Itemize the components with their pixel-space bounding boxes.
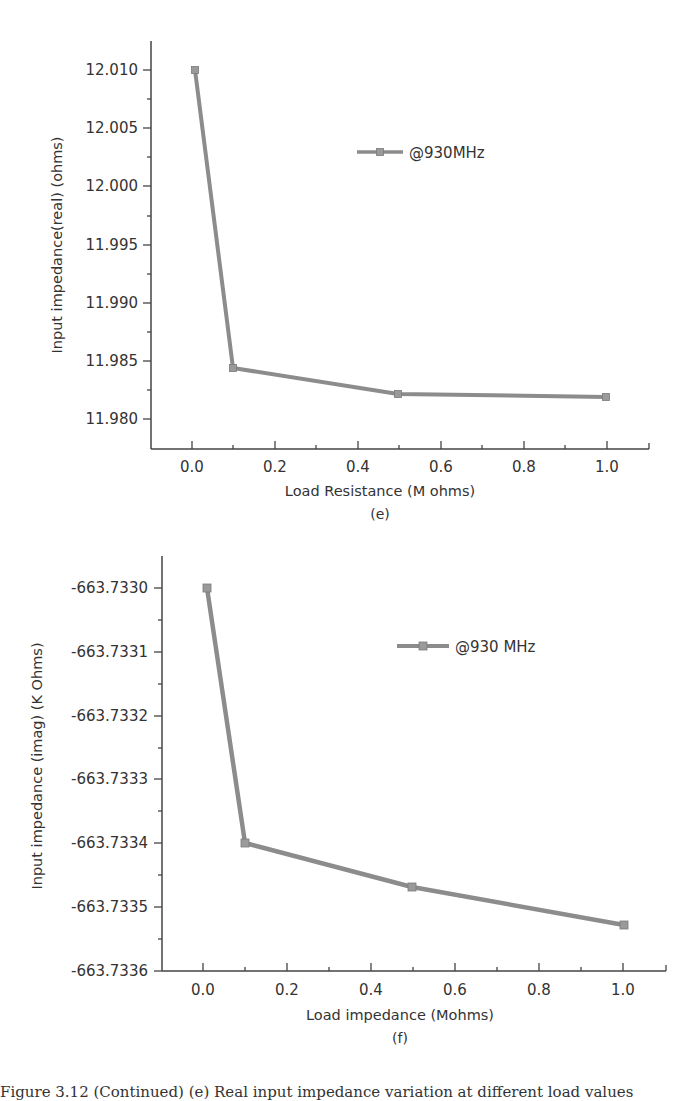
- y-tick-label: -663.7333: [71, 770, 148, 788]
- x-tick-label: 0.6: [443, 981, 467, 999]
- chart-e-markers: [192, 67, 610, 401]
- chart-f-y-ticks: [154, 588, 162, 971]
- chart-f: -663.7330 -663.7331 -663.7332 -663.7333 …: [29, 556, 666, 1046]
- y-tick-label: 11.990: [86, 294, 139, 312]
- y-tick-label: -663.7336: [71, 962, 148, 980]
- x-tick-label: 0.4: [359, 981, 383, 999]
- chart-f-markers: [203, 584, 628, 929]
- chart-e: 12.010 12.005 12.000 11.995 11.990 11.98…: [49, 41, 649, 522]
- chart-e-y-axis-label: Input impedance(real) (ohms): [49, 136, 65, 353]
- y-tick-label: -663.7331: [71, 643, 148, 661]
- y-tick-label: 12.010: [86, 61, 139, 79]
- x-tick-label: 0.0: [191, 981, 215, 999]
- legend-marker-icon: [419, 642, 427, 650]
- chart-e-x-ticks: [192, 441, 607, 449]
- chart-e-x-axis-label: Load Resistance (M ohms): [285, 483, 475, 499]
- chart-f-x-tick-labels: 0.0 0.2 0.4 0.6 0.8 1.0: [191, 981, 635, 999]
- x-tick-label: 0.8: [512, 458, 536, 476]
- chart-f-x-ticks: [203, 963, 623, 971]
- y-tick-label: -663.7332: [71, 707, 148, 725]
- chart-e-series-line: [195, 70, 606, 397]
- chart-f-panel-label: (f): [392, 1030, 408, 1046]
- chart-f-y-tick-labels: -663.7330 -663.7331 -663.7332 -663.7333 …: [71, 579, 148, 980]
- x-tick-label: 0.0: [180, 458, 204, 476]
- chart-e-panel-label: (e): [370, 506, 390, 522]
- x-tick-label: 0.8: [527, 981, 551, 999]
- chart-e-legend: @930MHz: [357, 144, 485, 162]
- y-tick-label: 11.980: [86, 410, 139, 428]
- legend-marker-icon: [377, 149, 384, 156]
- y-tick-label: 11.985: [86, 352, 139, 370]
- chart-e-x-tick-labels: 0.0 0.2 0.4 0.6 0.8 1.0: [180, 458, 619, 476]
- x-tick-label: 0.2: [275, 981, 299, 999]
- y-tick-label: -663.7335: [71, 898, 148, 916]
- x-tick-label: 1.0: [595, 458, 619, 476]
- x-tick-label: 1.0: [611, 981, 635, 999]
- x-tick-label: 0.6: [429, 458, 453, 476]
- chart-f-series-line: [207, 588, 624, 925]
- x-tick-label: 0.2: [263, 458, 287, 476]
- chart-e-legend-label: @930MHz: [409, 144, 485, 162]
- x-tick-label: 0.4: [346, 458, 370, 476]
- chart-f-x-axis-label: Load impedance (Mohms): [306, 1007, 494, 1023]
- chart-e-y-ticks: [143, 70, 151, 419]
- y-tick-label: 11.995: [86, 236, 139, 254]
- chart-f-legend-label: @930 MHz: [455, 638, 536, 656]
- chart-f-legend: @930 MHz: [397, 638, 536, 656]
- y-tick-label: -663.7334: [71, 834, 148, 852]
- y-tick-label: 12.000: [86, 177, 139, 195]
- figure-caption: Figure 3.12 (Continued) (e) Real input i…: [0, 1083, 693, 1101]
- chart-f-y-axis-label: Input impedance (imag) (K Ohms): [29, 642, 45, 889]
- chart-e-y-tick-labels: 12.010 12.005 12.000 11.995 11.990 11.98…: [86, 61, 139, 428]
- y-tick-label: 12.005: [86, 119, 139, 137]
- y-tick-label: -663.7330: [71, 579, 148, 597]
